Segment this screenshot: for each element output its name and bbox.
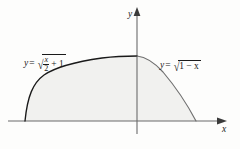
y-axis-label: y [128, 9, 132, 19]
label-right-equals: = [164, 60, 171, 70]
y-axis-arrow-icon [134, 7, 141, 16]
label-right-radical-group: √1 − x [172, 59, 203, 72]
label-left-plus-term: + 1 [49, 60, 63, 70]
label-left-radicand: x2+ 1 [42, 54, 65, 74]
label-left-radical-group: √x2+ 1 [36, 54, 68, 74]
curve-label-left: y=√x2+ 1 [24, 54, 67, 74]
label-left-equals: = [28, 58, 35, 68]
curve-label-right: y=√1 − x [160, 59, 202, 72]
label-right-radicand: 1 − x [178, 60, 201, 72]
x-axis-label: x [222, 124, 226, 134]
fraction-denominator: 2 [43, 65, 49, 73]
figure-canvas [0, 0, 240, 149]
fraction-x-over-2: x2 [43, 56, 49, 74]
math-figure: y=√x2+ 1 y=√1 − x y x [0, 0, 240, 149]
